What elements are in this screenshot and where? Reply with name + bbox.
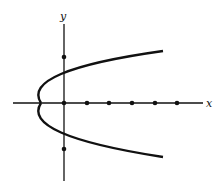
x-axis-label: x [206,97,213,110]
y-axis-label: y [59,10,67,23]
parabola-graph: x y [0,0,223,189]
parabola-curve-lower [38,103,163,157]
parabola-curve [38,51,163,103]
